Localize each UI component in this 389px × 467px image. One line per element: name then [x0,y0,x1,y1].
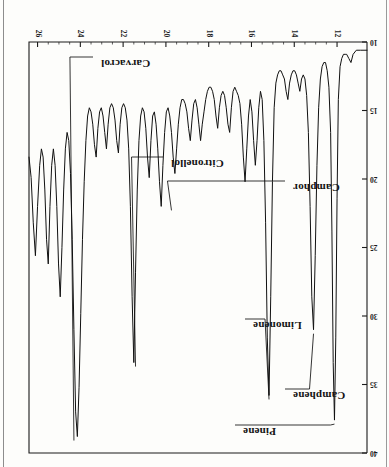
x-tick-18: 18 [204,26,213,42]
x-tick-16: 16 [247,26,256,42]
y-tick-35: 35 [370,381,385,390]
peak-label-limonene: Limonene [253,320,302,332]
rotated-plot-group: Pinene Camphene Limonene Camphor Citrone… [0,0,389,467]
x-tick-26: 26 [33,26,42,42]
x-tick-24: 24 [76,26,85,42]
peak-label-camphene: Camphene [293,390,345,402]
y-tick-20: 20 [370,175,385,184]
x-tick-22: 22 [119,26,128,42]
x-tick-12: 12 [333,26,342,42]
y-tick-40: 40 [370,449,385,458]
plot-area: Pinene Camphene Limonene Camphor Citrone… [0,0,389,467]
y-tick-15: 15 [370,107,385,116]
x-tick-20: 20 [161,26,170,42]
peak-label-camphor: Camphor [293,182,340,194]
y-tick-25: 25 [370,244,385,253]
peak-label-pinene: Pinene [243,426,276,438]
y-tick-10: 10 [370,38,385,47]
peak-label-citronellol: Citronellol [171,158,224,170]
chromatogram-figure: Pinene Camphene Limonene Camphor Citrone… [0,0,389,467]
y-tick-30: 30 [370,312,385,321]
x-tick-14: 14 [290,26,299,42]
trace-group [29,50,367,436]
peak-label-carvacrol: Carvacrol [101,58,150,70]
